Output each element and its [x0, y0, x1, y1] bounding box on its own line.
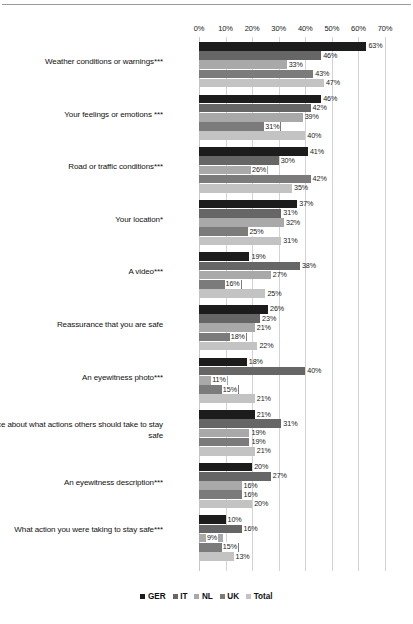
- bar-it[interactable]: [199, 209, 281, 218]
- bar-it[interactable]: [199, 51, 321, 60]
- category-label: A video***: [0, 267, 163, 278]
- bar-value-label: 26%: [270, 304, 284, 314]
- bar-value-label: 21%: [257, 394, 271, 404]
- bar-value-label: 13%: [236, 552, 250, 562]
- bar-row: 42%: [199, 104, 385, 113]
- bar-total[interactable]: [199, 79, 324, 88]
- bar-nl[interactable]: [199, 323, 255, 332]
- bar-ger[interactable]: [199, 42, 366, 51]
- bar-value-label: 21%: [257, 446, 271, 456]
- bar-total[interactable]: [199, 342, 257, 351]
- bar-value-label: 16%: [225, 279, 241, 289]
- bar-value-label: 38%: [302, 261, 316, 271]
- x-tick-60pct: 60%: [351, 24, 366, 33]
- bar-ger[interactable]: [199, 463, 252, 472]
- bar-total[interactable]: [199, 500, 252, 509]
- bar-total[interactable]: [199, 394, 255, 403]
- grouped-bar-chart: 0%10%20%30%40%50%60%70% Weather conditio…: [0, 0, 413, 624]
- bar-row: 46%: [199, 95, 385, 104]
- bar-value-label: 39%: [305, 112, 319, 122]
- x-axis-tick-labels: 0%10%20%30%40%50%60%70%: [0, 24, 413, 36]
- bar-value-label: 18%: [230, 332, 246, 342]
- bar-group: Reassurance that you are safe26%23%21%18…: [199, 305, 385, 351]
- bar-nl[interactable]: [199, 218, 284, 227]
- bar-it[interactable]: [199, 525, 242, 534]
- gridline-70: [385, 37, 386, 571]
- bar-ger[interactable]: [199, 95, 321, 104]
- bar-row: 27%: [199, 472, 385, 481]
- bar-it[interactable]: [199, 156, 279, 165]
- bar-nl[interactable]: [199, 271, 271, 280]
- bar-group: An eyewitness photo***18%40%11%15%21%: [199, 358, 385, 404]
- bar-total[interactable]: [199, 447, 255, 456]
- bar-it[interactable]: [199, 367, 305, 376]
- bar-value-label: 20%: [254, 499, 268, 509]
- bar-row: 21%: [199, 394, 385, 403]
- bar-value-label: 16%: [244, 524, 258, 534]
- bar-row: 16%: [199, 525, 385, 534]
- legend-item-ger[interactable]: GER: [140, 592, 165, 601]
- bar-uk[interactable]: [199, 490, 242, 499]
- bar-value-label: 10%: [228, 515, 242, 525]
- bar-value-label: 40%: [307, 366, 321, 376]
- bar-row: 33%: [199, 60, 385, 69]
- bar-nl[interactable]: [199, 481, 242, 490]
- bar-it[interactable]: [199, 472, 271, 481]
- bar-total[interactable]: [199, 237, 281, 246]
- bar-value-label: 19%: [251, 437, 265, 447]
- bar-ger[interactable]: [199, 252, 249, 261]
- bar-ger[interactable]: [199, 200, 297, 209]
- bar-row: 16%: [199, 280, 385, 289]
- x-tick-0pct: 0%: [194, 24, 205, 33]
- bar-total[interactable]: [199, 289, 265, 298]
- x-tick-30pct: 30%: [271, 24, 286, 33]
- category-label: Weather conditions or warnings***: [0, 57, 163, 68]
- bar-it[interactable]: [199, 104, 311, 113]
- bar-nl[interactable]: [199, 113, 303, 122]
- bar-it[interactable]: [199, 419, 281, 428]
- bar-nl[interactable]: [199, 60, 287, 69]
- category-label: What action you were taking to stay safe…: [0, 525, 163, 536]
- legend-item-uk[interactable]: UK: [220, 592, 239, 601]
- bar-ger[interactable]: [199, 358, 247, 367]
- legend-item-total[interactable]: Total: [246, 592, 272, 601]
- bar-uk[interactable]: [199, 70, 313, 79]
- bar-uk[interactable]: [199, 175, 311, 184]
- bar-nl[interactable]: [199, 429, 249, 438]
- legend-item-it[interactable]: IT: [173, 592, 188, 601]
- bar-ger[interactable]: [199, 305, 268, 314]
- bar-value-label: 37%: [299, 199, 313, 209]
- bar-row: 31%: [199, 419, 385, 428]
- bar-ger[interactable]: [199, 515, 226, 524]
- bar-value-label: 31%: [264, 122, 280, 132]
- bar-value-label: 16%: [244, 481, 258, 491]
- bar-value-label: 19%: [251, 428, 265, 438]
- legend-item-nl[interactable]: NL: [194, 592, 212, 601]
- bar-value-label: 42%: [313, 103, 327, 113]
- bar-row: 19%: [199, 438, 385, 447]
- legend-swatch-icon: [194, 594, 199, 599]
- bar-uk[interactable]: [199, 438, 249, 447]
- bar-value-label: 19%: [251, 252, 265, 262]
- bar-group: A video***19%38%27%16%25%: [199, 252, 385, 298]
- bar-row: 23%: [199, 314, 385, 323]
- category-label: Road or traffic conditions***: [0, 162, 163, 173]
- bar-it[interactable]: [199, 314, 260, 323]
- bar-value-label: 46%: [323, 94, 337, 104]
- x-tick-70pct: 70%: [378, 24, 393, 33]
- category-label: Your location*: [0, 215, 163, 226]
- bar-value-label: 43%: [315, 69, 329, 79]
- bar-total[interactable]: [199, 184, 292, 193]
- bar-group: Advice about what actions others should …: [199, 410, 385, 456]
- bar-it[interactable]: [199, 262, 300, 271]
- legend-label: UK: [227, 592, 239, 601]
- bar-total[interactable]: [199, 552, 234, 561]
- bar-ger[interactable]: [199, 410, 255, 419]
- bar-value-label: 25%: [267, 289, 281, 299]
- bar-total[interactable]: [199, 131, 305, 140]
- bar-value-label: 47%: [326, 78, 340, 88]
- bar-ger[interactable]: [199, 147, 308, 156]
- bar-row: 47%: [199, 79, 385, 88]
- bar-group: Your location*37%31%32%25%31%: [199, 200, 385, 246]
- bar-value-label: 15%: [222, 385, 238, 395]
